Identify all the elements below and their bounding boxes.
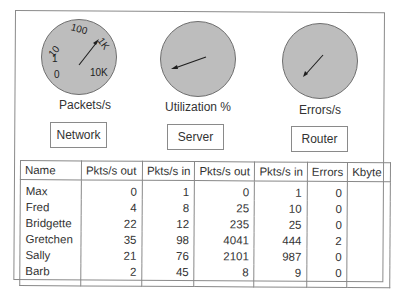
cell-pkts-in: 76 (142, 248, 195, 264)
packets-gauge-label: Packets/s (35, 98, 135, 112)
cell-pkts-out: 35 (81, 231, 142, 247)
cell-pkts-in: 12 (142, 216, 195, 232)
cell-pkts-in-2: 10 (255, 200, 308, 216)
cell-errors: 0 (307, 249, 347, 265)
cell-pkts-out-2: 235 (195, 216, 255, 232)
table-row[interactable]: Max 0 1 0 1 0 (20, 180, 390, 202)
cell-pkts-in: 1 (142, 180, 195, 200)
cell-pkts-out: 22 (81, 215, 142, 231)
column-header-pkts-in-2[interactable]: Pkts/s in (255, 162, 308, 181)
cell-kbyte (348, 182, 391, 202)
cell-pkts-in-2: 1 (255, 181, 308, 201)
column-header-errors[interactable]: Errors (307, 162, 347, 181)
cell-errors: 0 (307, 265, 347, 288)
cell-pkts-out-2: 0 (195, 181, 255, 201)
cell-pkts-in: 98 (142, 232, 195, 248)
cell-pkts-in-2: 444 (254, 232, 307, 248)
scale-label-10k: 10K (90, 67, 108, 78)
cell-pkts-in-2: 9 (254, 264, 307, 287)
scale-label-0: 0 (54, 69, 60, 80)
cell-kbyte (347, 265, 390, 288)
cell-pkts-in: 45 (142, 264, 195, 287)
cell-pkts-out: 0 (81, 180, 142, 200)
utilization-gauge (159, 20, 237, 98)
cell-errors: 0 (307, 181, 347, 201)
cell-errors: 0 (307, 201, 347, 217)
table-header-row: Name Pkts/s out Pkts/s in Pkts/s out Pkt… (20, 161, 390, 182)
table-row[interactable]: Barb 2 45 8 9 0 (20, 263, 390, 288)
cell-name: Fred (20, 199, 81, 215)
cell-kbyte (347, 201, 390, 217)
cell-pkts-out: 2 (81, 263, 142, 286)
packets-gauge: 10 100 1K 1 0 10K (40, 18, 118, 96)
cell-name: Bridgette (20, 215, 81, 231)
cell-pkts-in: 8 (142, 200, 195, 216)
cell-pkts-in-2: 25 (255, 216, 308, 232)
cell-name: Gretchen (20, 231, 81, 247)
cell-kbyte (347, 249, 390, 265)
column-header-pkts-out[interactable]: Pkts/s out (81, 161, 142, 180)
cell-errors: 2 (307, 233, 347, 249)
column-header-pkts-out-2[interactable]: Pkts/s out (195, 162, 255, 181)
cell-pkts-in-2: 987 (254, 248, 307, 264)
scale-label-1: 1 (52, 53, 58, 64)
cell-pkts-out-2: 2101 (194, 248, 254, 264)
cell-name: Barb (20, 263, 81, 286)
cell-pkts-out-2: 8 (194, 264, 254, 287)
column-header-kbyte[interactable]: Kbyte (348, 163, 391, 182)
cell-name: Sally (20, 247, 81, 263)
errors-gauge (281, 22, 359, 100)
cell-kbyte (347, 233, 390, 249)
errors-gauge-label: Errors/s (270, 103, 370, 117)
stats-table: Name Pkts/s out Pkts/s in Pkts/s out Pkt… (19, 160, 391, 288)
cell-pkts-out-2: 4041 (194, 232, 254, 248)
cell-pkts-out-2: 25 (195, 200, 255, 216)
column-header-pkts-in[interactable]: Pkts/s in (142, 161, 195, 180)
cell-kbyte (347, 217, 390, 233)
cell-pkts-out: 4 (81, 199, 142, 215)
utilization-gauge-label: Utilization % (148, 100, 248, 114)
column-header-name[interactable]: Name (20, 161, 81, 180)
network-button[interactable]: Network (50, 122, 107, 148)
cell-pkts-out: 21 (81, 247, 142, 263)
cell-name: Max (20, 180, 81, 200)
router-button[interactable]: Router (291, 126, 348, 152)
cell-errors: 0 (307, 217, 347, 233)
server-button[interactable]: Server (167, 124, 224, 150)
